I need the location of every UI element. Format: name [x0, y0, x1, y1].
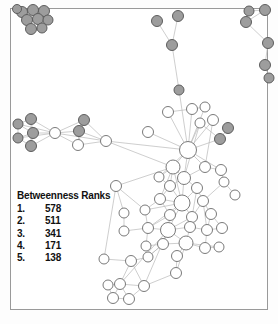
graph-node	[143, 223, 154, 234]
graph-node	[260, 5, 271, 16]
graph-node	[202, 225, 213, 236]
graph-node	[13, 5, 22, 14]
legend-title: Betweenness Ranks	[17, 190, 110, 202]
graph-node	[165, 210, 176, 221]
legend-row: 5.138	[17, 252, 61, 264]
graph-node	[167, 40, 178, 51]
graph-node	[37, 23, 47, 33]
graph-node	[111, 181, 122, 192]
legend-row: 1.578	[17, 203, 61, 215]
graph-node	[163, 107, 174, 118]
graph-node	[217, 223, 228, 234]
legend-rank: 4.	[17, 240, 43, 252]
legend-rank: 5.	[17, 252, 43, 264]
graph-node	[174, 195, 190, 211]
legend-value: 578	[43, 203, 61, 215]
graph-node	[124, 294, 135, 305]
graph-node	[171, 268, 182, 279]
graph-node	[50, 128, 61, 139]
graph-edge	[172, 45, 179, 90]
graph-node	[185, 222, 196, 233]
graph-node	[139, 281, 150, 292]
graph-node	[26, 141, 37, 152]
legend-rank: 1.	[17, 203, 43, 215]
graph-node	[263, 38, 274, 49]
legend-row: 2.511	[17, 215, 61, 227]
graph-node	[13, 133, 23, 143]
graph-node	[195, 118, 205, 128]
graph-node	[206, 209, 217, 220]
graph-node	[119, 226, 129, 236]
graph-node	[26, 114, 37, 125]
figure-container: Betweenness Ranks 1.5782.5113.3414.1715.…	[0, 0, 278, 324]
graph-node	[178, 172, 191, 185]
betweenness-legend: Betweenness Ranks 1.5782.5113.3414.1715.…	[17, 190, 110, 264]
graph-node	[161, 223, 176, 238]
graph-node	[143, 252, 153, 262]
graph-node	[223, 123, 234, 134]
graph-node	[13, 119, 23, 129]
graph-node	[180, 142, 197, 159]
graph-node	[126, 256, 137, 267]
graph-node	[179, 236, 193, 250]
graph-node	[74, 126, 85, 137]
graph-node	[141, 241, 151, 251]
graph-node	[26, 24, 37, 35]
graph-node	[155, 194, 166, 205]
graph-node	[165, 181, 176, 192]
legend-row: 4.171	[17, 240, 61, 252]
graph-node	[143, 127, 154, 138]
legend-value: 171	[43, 240, 61, 252]
graph-node	[174, 85, 184, 95]
legend-rank: 3.	[17, 228, 43, 240]
legend-row: 3.341	[17, 228, 61, 240]
graph-node	[73, 140, 84, 151]
graph-node	[152, 16, 163, 27]
graph-node	[154, 172, 164, 182]
graph-node	[230, 190, 240, 200]
graph-node	[28, 128, 39, 139]
graph-node	[216, 165, 227, 176]
graph-node	[173, 11, 184, 22]
graph-node	[192, 183, 203, 194]
legend-value: 341	[43, 228, 61, 240]
graph-node	[79, 115, 90, 126]
graph-node	[101, 136, 112, 147]
graph-node	[158, 239, 169, 250]
graph-node	[244, 6, 254, 16]
graph-node	[166, 160, 180, 174]
graph-node	[241, 17, 252, 28]
graph-node	[187, 212, 198, 223]
graph-node	[172, 251, 183, 262]
graph-node	[264, 73, 274, 83]
graph-node	[187, 104, 198, 115]
legend-value: 138	[43, 252, 61, 264]
graph-node	[215, 134, 226, 145]
legend-rank: 2.	[17, 215, 43, 227]
graph-node	[260, 60, 271, 71]
graph-node	[115, 279, 126, 290]
graph-node	[200, 162, 211, 173]
legend-value: 511	[43, 215, 61, 227]
graph-node	[214, 242, 224, 252]
legend-table: 1.5782.5113.3414.1715.138	[17, 203, 61, 264]
graph-node	[103, 280, 113, 290]
graph-node	[208, 115, 219, 126]
graph-node	[198, 196, 209, 207]
graph-node	[219, 177, 229, 187]
graph-node	[108, 293, 119, 304]
network-graph	[0, 0, 278, 324]
graph-node	[200, 243, 211, 254]
graph-node	[119, 208, 129, 218]
graph-node	[140, 205, 150, 215]
graph-node	[200, 102, 210, 112]
